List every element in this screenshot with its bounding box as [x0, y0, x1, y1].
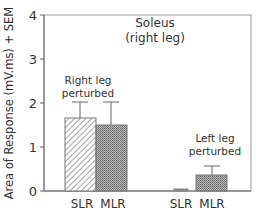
bar-chart: 4 3 2 1 0 Area of Response (mV.ms) + SEM…: [0, 0, 260, 216]
group-label-right: Right leg: [64, 74, 111, 86]
svg-text:0: 0: [29, 184, 37, 199]
group-label-left: Left leg: [195, 132, 234, 144]
x-label-slr: SLR: [170, 197, 193, 211]
x-label-mlr: MLR: [100, 197, 125, 211]
svg-text:2: 2: [29, 96, 37, 111]
svg-text:1: 1: [29, 140, 37, 155]
bar-left-slr: [174, 189, 188, 191]
y-ticks: 4 3 2 1 0: [29, 8, 44, 199]
bar-left-mlr: [196, 166, 227, 191]
bar-right-mlr: [96, 102, 127, 191]
x-label-slr: SLR: [71, 197, 94, 211]
y-axis-label: Area of Response (mV.ms) + SEM: [2, 7, 16, 200]
svg-text:3: 3: [29, 52, 37, 67]
x-label-mlr: MLR: [199, 197, 224, 211]
svg-text:4: 4: [29, 8, 37, 23]
chart-subtitle: (right leg): [125, 31, 185, 45]
chart-title: Soleus: [135, 16, 175, 30]
group-label-left: perturbed: [189, 145, 241, 157]
bar-right-slr: [65, 102, 96, 191]
group-label-right: perturbed: [62, 87, 114, 99]
